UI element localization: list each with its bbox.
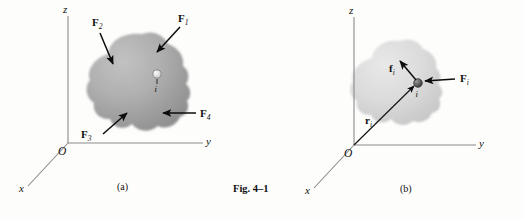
rigid-body-shape-b xyxy=(350,39,442,125)
position-vector-label-ri: ri xyxy=(365,114,372,129)
force-label-f4: F4 xyxy=(200,107,211,122)
mechanics-figure-4-1: z y x O i F1 F2 F3 xyxy=(0,0,524,219)
y-axis-label-a: y xyxy=(205,135,211,147)
y-axis-label-b: y xyxy=(478,137,484,149)
z-axis-label-a: z xyxy=(62,3,68,15)
z-axis-label-b: z xyxy=(348,4,354,16)
force-label-f2: F2 xyxy=(92,16,103,31)
figure-name-label: Fig. 4–1 xyxy=(233,183,269,194)
panel-a: z y x O i F1 F2 F3 xyxy=(18,3,211,194)
rigid-body-shape-a xyxy=(87,32,191,130)
origin-label-b: O xyxy=(344,147,353,159)
particle-marker-a xyxy=(153,70,161,78)
external-force-label-Fi: Fi xyxy=(460,72,469,87)
panel-caption-b: (b) xyxy=(400,183,412,195)
x-axis-label-a: x xyxy=(18,182,24,194)
figure-container: z y x O i F1 F2 F3 xyxy=(0,0,524,219)
particle-marker-b xyxy=(414,79,423,88)
force-label-f1: F1 xyxy=(178,12,188,27)
x-axis-label-b: x xyxy=(304,184,310,196)
force-label-f3: F3 xyxy=(81,128,92,143)
panel-caption-a: (a) xyxy=(117,181,128,193)
origin-label-a: O xyxy=(58,145,67,157)
panel-b: z y x O ri i fi Fi (b) xyxy=(304,4,484,196)
